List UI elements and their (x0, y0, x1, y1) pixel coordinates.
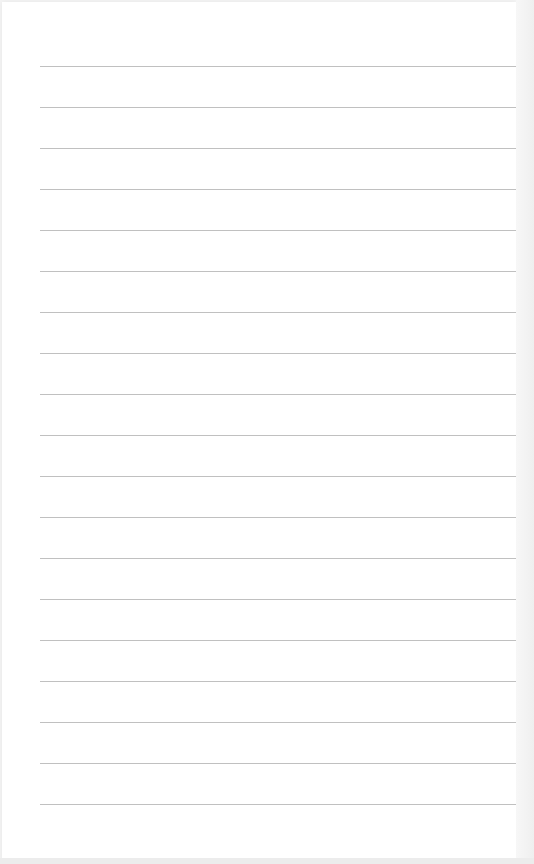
lined-paper-sheet (2, 2, 516, 860)
ruled-line (40, 763, 516, 764)
ruled-line (40, 189, 516, 190)
ruled-line (40, 722, 516, 723)
ruled-line (40, 107, 516, 108)
page-edge-right (516, 0, 534, 864)
ruled-line (40, 312, 516, 313)
ruled-line (40, 271, 516, 272)
page-edge-bottom (0, 858, 534, 864)
ruled-line (40, 558, 516, 559)
ruled-line (40, 435, 516, 436)
ruled-line (40, 681, 516, 682)
ruled-line (40, 230, 516, 231)
ruled-line (40, 394, 516, 395)
ruled-line (40, 148, 516, 149)
ruled-line (40, 599, 516, 600)
ruled-line (40, 640, 516, 641)
ruled-line (40, 476, 516, 477)
ruled-line (40, 517, 516, 518)
ruled-line (40, 66, 516, 67)
ruled-line (40, 353, 516, 354)
ruled-line (40, 804, 516, 805)
